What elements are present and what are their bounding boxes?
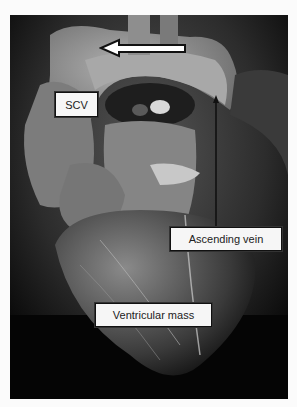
specimen-photo: SCV Ascending vein Ventricular mass [10,15,288,399]
heart-specimen-illustration [10,15,288,399]
label-ventricular-mass: Ventricular mass [95,303,212,327]
ascending-vein-pointer-arrow-icon [210,95,222,229]
flow-arrow-left-icon [99,38,189,58]
label-scv: SCV [55,92,98,117]
label-ascending-vein: Ascending vein [170,227,282,251]
